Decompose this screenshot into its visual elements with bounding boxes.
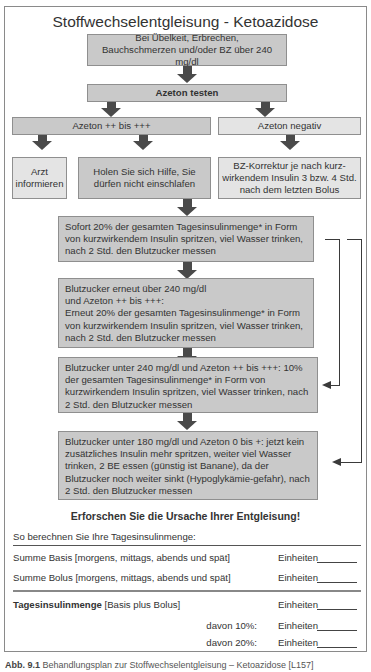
divider	[13, 545, 361, 546]
inform-doctor-text: Arzt informieren	[15, 166, 65, 190]
unit-label: Einheiten	[278, 572, 318, 583]
step1-text: Sofort 20% der gesamten Tagesinsulinmeng…	[65, 221, 303, 256]
diagram-title: Stoffwechselentgleisung - Ketoazidose	[0, 13, 371, 31]
get-help-text: Holen Sie sich Hilfe, Sie dürfen nicht e…	[81, 166, 209, 190]
acetone-negative-text: Azeton negativ	[258, 120, 321, 132]
unit-label: Einheiten	[278, 637, 318, 648]
acetone-negative-box: Azeton negativ	[218, 117, 361, 135]
calc-row-10pct: davon 10%: Einheiten	[13, 620, 360, 634]
step2-condition-line1: Blutzucker erneut über 240 mg/dl	[65, 283, 307, 295]
bz-correction-text: BZ-Korrektur je nach kurz-wirkendem Insu…	[222, 160, 358, 197]
pct10-label: davon 10%:	[206, 620, 257, 631]
bz-correction-box: BZ-Korrektur je nach kurz-wirkendem Insu…	[218, 157, 361, 199]
total-label: Tagesinsulinmenge [Basis plus Bolus]	[13, 599, 180, 610]
pct20-label: davon 20%:	[206, 637, 257, 648]
test-acetone-text: Azeton testen	[156, 87, 219, 99]
arrow-left-icon	[332, 458, 341, 466]
caption-text: Behandlungsplan zur Stoffwechselentgleis…	[40, 660, 314, 670]
calc-row-bolus: Summe Bolus [morgens, mittags, abends un…	[13, 572, 360, 586]
unit-label: Einheiten	[278, 552, 318, 563]
pct10-input-line[interactable]	[317, 630, 357, 631]
step2-box: Blutzucker erneut über 240 mg/dl und Aze…	[58, 278, 314, 348]
figure-caption: Abb. 9.1 Behandlungsplan zur Stoffwechse…	[5, 660, 314, 670]
total-label-rest: [Basis plus Bolus]	[102, 599, 180, 610]
start-condition-text: Bei Übelkeit, Erbrechen, Bauchschmerzen …	[97, 32, 277, 69]
basis-input-line[interactable]	[317, 562, 357, 563]
calc-row-basis: Summe Basis [morgens, mittags, abends un…	[13, 552, 360, 566]
divider	[13, 590, 361, 592]
step3-box: Blutzucker unter 240 mg/dl und Azeton ++…	[58, 357, 318, 413]
calc-heading: So berechnen Sie Ihre Tagesinsulinmenge:	[13, 531, 360, 545]
unit-label: Einheiten	[278, 620, 318, 631]
step4-text: Blutzucker unter 180 mg/dl und Azeton 0 …	[65, 436, 310, 496]
get-help-box: Holen Sie sich Hilfe, Sie dürfen nicht e…	[78, 157, 211, 199]
calc-heading-text: So berechnen Sie Ihre Tagesinsulinmenge:	[13, 531, 196, 542]
bolus-label: Summe Bolus [morgens, mittags, abends un…	[13, 572, 231, 583]
basis-label: Summe Basis [morgens, mittags, abends un…	[13, 552, 230, 563]
caption-label: Abb. 9.1	[5, 660, 40, 670]
bolus-input-line[interactable]	[317, 582, 357, 583]
total-input-line[interactable]	[317, 609, 357, 610]
step1-box: Sofort 20% der gesamten Tagesinsulinmeng…	[58, 216, 314, 262]
test-acetone-box: Azeton testen	[87, 84, 287, 102]
step2-condition-line2: und Azeton ++ bis +++:	[65, 295, 307, 307]
calc-row-20pct: davon 20%: Einheiten	[13, 637, 360, 651]
step3-text: Blutzucker unter 240 mg/dl und Azeton ++…	[65, 362, 308, 410]
acetone-positive-text: Azeton ++ bis +++	[72, 120, 150, 132]
unit-label: Einheiten	[278, 599, 318, 610]
conclusion-heading: Erforschen Sie die Ursache Ihrer Entglei…	[0, 510, 371, 522]
arrow-left-icon	[322, 381, 331, 389]
calc-row-total: Tagesinsulinmenge [Basis plus Bolus] Ein…	[13, 599, 360, 613]
step2-text: Erneut 20% der gesamten Tagesinsulinmeng…	[65, 307, 307, 344]
start-condition-box: Bei Übelkeit, Erbrechen, Bauchschmerzen …	[87, 34, 287, 66]
pct20-input-line[interactable]	[317, 647, 357, 648]
inform-doctor-box: Arzt informieren	[12, 157, 67, 199]
step4-box: Blutzucker unter 180 mg/dl und Azeton 0 …	[58, 431, 318, 500]
acetone-positive-box: Azeton ++ bis +++	[12, 117, 211, 135]
total-label-bold: Tagesinsulinmenge	[13, 599, 102, 610]
